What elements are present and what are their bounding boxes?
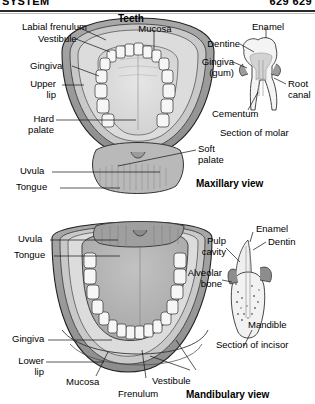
label-tongue-lower: Tongue: [14, 250, 45, 261]
label-cementum: Cementum: [212, 109, 258, 120]
label-upper-lip: Upper lip: [0, 79, 56, 100]
label-vestibule-upper: Vestibule: [38, 34, 77, 45]
label-lower-lip: Lower lip: [0, 356, 44, 377]
label-dentin: Dentin: [268, 237, 295, 248]
caption-mandibulary-view: Mandibulary view: [186, 389, 269, 400]
label-gingiva-gum: Gingiva (gum): [186, 57, 234, 78]
label-pulp-cavity: Pulp cavity: [182, 236, 226, 257]
label-dentine: Dentine: [196, 39, 240, 50]
label-mucosa-lower: Mucosa: [66, 377, 99, 388]
label-vestibule-lower: Vestibule: [152, 376, 191, 387]
figure-page: SYSTEM 629 629: [0, 0, 315, 404]
label-mucosa-upper: Mucosa: [130, 24, 180, 35]
caption-section-of-molar: Section of molar: [220, 128, 289, 139]
label-enamel-incisor: Enamel: [256, 224, 288, 235]
label-hard-palate: Hard palate: [0, 114, 54, 135]
label-alveolar-bone: Alveolar bone: [172, 268, 222, 289]
caption-maxillary-view: Maxillary view: [196, 178, 263, 189]
molar-section-illustration: [233, 28, 286, 110]
label-gingiva-upper: Gingiva: [30, 61, 62, 72]
label-root-canal: Root canal: [288, 79, 311, 100]
label-soft-palate: Soft palate: [198, 144, 224, 165]
label-uvula-upper: Uvula: [20, 166, 44, 177]
label-tongue-upper: Tongue: [16, 182, 47, 193]
caption-section-of-incisor: Section of incisor: [216, 340, 288, 351]
label-enamel-molar: Enamel: [252, 22, 284, 33]
label-uvula-lower: Uvula: [18, 234, 42, 245]
label-frenulum: Frenulum: [118, 389, 158, 400]
label-mandible: Mandible: [248, 320, 287, 331]
label-labial-frenulum: Labial frenulum: [22, 22, 87, 33]
label-gingiva-lower: Gingiva: [12, 334, 44, 345]
